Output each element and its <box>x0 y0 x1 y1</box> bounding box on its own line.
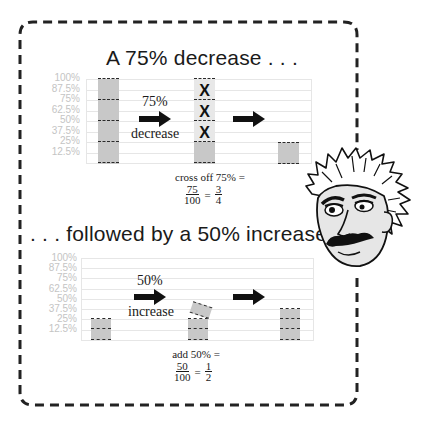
dash-divider <box>98 78 119 79</box>
dash-divider <box>280 339 300 340</box>
dash-divider <box>280 318 300 319</box>
y-label: 100% <box>36 73 80 83</box>
top-fraction-equation: 75100 = 34 <box>184 184 222 205</box>
gridline <box>81 299 314 300</box>
dash-divider <box>194 78 215 79</box>
gridline <box>86 79 87 164</box>
arrow-label-word: increase <box>128 304 174 320</box>
fraction-denominator: 2 <box>206 372 212 382</box>
dash-divider <box>91 328 111 329</box>
gridline <box>81 289 314 290</box>
cross-mark: X <box>194 125 215 141</box>
dash-divider <box>194 162 215 163</box>
dash-divider <box>188 318 208 319</box>
bottom-fraction-equation: 50100 = 12 <box>174 361 212 382</box>
arrow-label-word: decrease <box>131 126 179 142</box>
dash-divider <box>194 99 215 100</box>
gridline <box>81 258 314 259</box>
y-label: 75% <box>33 273 77 283</box>
dash-divider <box>91 318 111 319</box>
dash-divider <box>280 328 300 329</box>
bottom-caption: add 50% = <box>136 348 256 360</box>
arrow-label-percent: 50% <box>137 273 163 289</box>
dash-divider <box>194 141 215 142</box>
bar-remaining-25-percent <box>194 142 215 164</box>
right-arrow-icon <box>233 289 265 305</box>
dash-divider <box>91 339 111 340</box>
equals-sign: = <box>205 189 211 201</box>
bottom-heading: . . . followed by a 50% increase. <box>30 222 333 246</box>
arrow-label-percent: 75% <box>142 94 168 110</box>
fraction-denominator: 100 <box>174 372 191 382</box>
cross-mark: X <box>194 104 215 120</box>
top-heading: A 75% decrease . . . <box>106 46 298 70</box>
top-caption: cross off 75% = <box>150 171 270 183</box>
dash-divider <box>98 120 119 121</box>
dash-divider <box>194 120 215 121</box>
fraction-denominator: 4 <box>216 195 222 205</box>
cross-mark: X <box>194 83 215 99</box>
bar-37-5-percent <box>280 309 300 340</box>
bar-25-percent <box>188 319 208 340</box>
dash-divider <box>188 339 208 340</box>
dash-divider <box>98 141 119 142</box>
y-label: 75% <box>36 94 80 104</box>
dash-divider <box>98 162 119 163</box>
right-arrow-icon <box>134 289 166 305</box>
y-label: 25% <box>36 136 80 146</box>
gridline <box>81 268 314 269</box>
right-arrow-icon <box>139 111 171 127</box>
dash-divider <box>280 308 300 309</box>
bar-25-percent <box>91 319 111 340</box>
bar-100-percent <box>98 79 119 164</box>
right-arrow-icon <box>233 111 265 127</box>
y-label: 50% <box>36 115 80 125</box>
dash-divider <box>98 99 119 100</box>
gridline <box>81 340 314 341</box>
gridline <box>81 278 314 279</box>
y-label: 12.5% <box>36 147 80 157</box>
equals-sign: = <box>195 366 201 378</box>
gridline <box>81 258 82 341</box>
einstein-caricature-icon <box>292 142 425 272</box>
fraction-denominator: 100 <box>184 195 201 205</box>
y-label: 12.5% <box>33 324 77 334</box>
dash-divider <box>188 328 208 329</box>
